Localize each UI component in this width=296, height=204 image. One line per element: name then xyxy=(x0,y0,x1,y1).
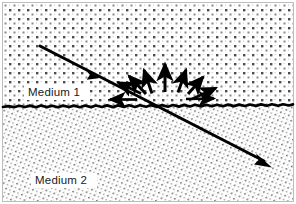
medium-2-label: Medium 2 xyxy=(35,174,87,186)
scattering-diagram: Medium 1 Medium 2 xyxy=(0,0,296,204)
scattered-arrow-right-horizontal xyxy=(186,99,214,100)
medium-1-label: Medium 1 xyxy=(28,86,80,98)
